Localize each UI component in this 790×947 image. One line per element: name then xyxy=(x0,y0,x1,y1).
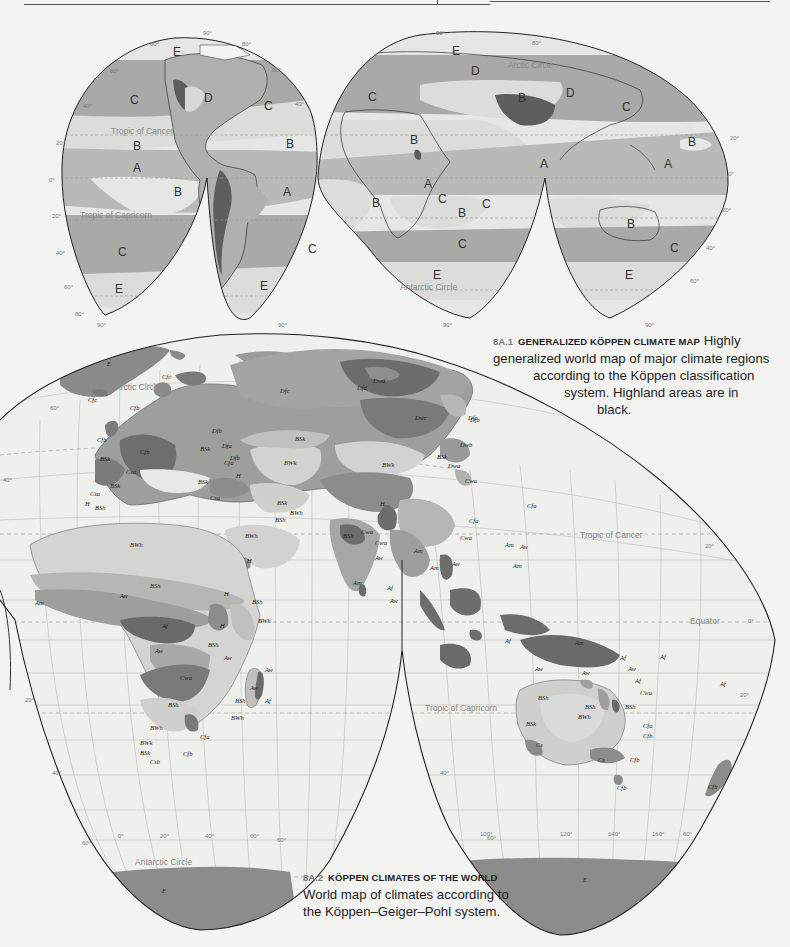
svg-text:D: D xyxy=(204,91,213,105)
svg-text:Af: Af xyxy=(504,637,512,644)
svg-text:Cfb: Cfb xyxy=(97,436,107,443)
svg-text:60°: 60° xyxy=(50,405,60,411)
svg-text:90°: 90° xyxy=(278,322,288,328)
svg-text:60°: 60° xyxy=(110,68,120,74)
svg-text:Cfc: Cfc xyxy=(162,373,171,380)
svg-text:BWh: BWh xyxy=(231,714,244,721)
svg-text:Af: Af xyxy=(386,584,394,591)
svg-text:160°: 160° xyxy=(652,831,665,837)
svg-text:60°: 60° xyxy=(250,833,260,839)
svg-text:BSk: BSk xyxy=(140,749,150,756)
svg-text:80°: 80° xyxy=(75,311,85,317)
svg-text:Aw: Aw xyxy=(519,543,529,550)
svg-text:E: E xyxy=(161,887,166,894)
svg-text:BWh: BWh xyxy=(130,541,143,548)
map2-degree-labels: 0° 20° 40° 60° 100° 120° 140° 160° 60° 4… xyxy=(3,405,754,846)
svg-text:C: C xyxy=(118,245,127,259)
svg-text:Af: Af xyxy=(634,677,642,684)
svg-text:Am: Am xyxy=(504,541,514,548)
svg-text:60°: 60° xyxy=(487,835,497,841)
svg-text:Cwa: Cwa xyxy=(640,689,652,696)
svg-text:Cfb: Cfb xyxy=(140,448,150,455)
svg-text:Aw: Aw xyxy=(154,647,164,654)
svg-text:Equator: Equator xyxy=(690,616,720,626)
svg-text:Cfa: Cfa xyxy=(469,517,478,524)
svg-text:C: C xyxy=(438,192,447,206)
svg-text:E: E xyxy=(173,45,181,59)
svg-text:B: B xyxy=(372,196,380,210)
svg-text:Af: Af xyxy=(619,654,627,661)
svg-text:0°: 0° xyxy=(728,171,734,177)
svg-text:60°: 60° xyxy=(272,67,282,73)
svg-text:BSh: BSh xyxy=(625,703,635,710)
svg-text:B: B xyxy=(286,137,294,151)
svg-text:C: C xyxy=(368,90,377,104)
svg-text:A: A xyxy=(664,157,672,171)
svg-text:90°: 90° xyxy=(443,322,453,328)
svg-text:60°: 60° xyxy=(277,837,287,843)
svg-text:Am: Am xyxy=(34,599,44,606)
svg-text:60°: 60° xyxy=(64,284,74,290)
svg-text:Aw: Aw xyxy=(451,560,461,567)
svg-text:90°: 90° xyxy=(97,322,107,328)
svg-text:20°: 20° xyxy=(730,135,740,141)
svg-text:D: D xyxy=(471,64,480,78)
svg-text:H: H xyxy=(379,500,385,507)
svg-text:Dfb: Dfb xyxy=(229,454,241,461)
svg-text:BSh: BSh xyxy=(168,701,178,708)
svg-text:Aw: Aw xyxy=(627,665,637,672)
svg-text:D: D xyxy=(566,86,575,100)
svg-text:Csa: Csa xyxy=(90,490,100,497)
svg-text:H: H xyxy=(219,622,225,629)
caption-line-5: black. xyxy=(597,401,790,418)
svg-text:C: C xyxy=(264,99,273,113)
svg-text:Cfc: Cfc xyxy=(88,396,97,403)
svg-text:Dfb: Dfb xyxy=(211,427,223,434)
svg-text:Dfd: Dfd xyxy=(356,384,368,391)
caption-line-1: Highly xyxy=(704,333,741,348)
svg-text:E: E xyxy=(115,282,123,296)
svg-text:Cwa: Cwa xyxy=(375,539,387,546)
svg-text:B: B xyxy=(458,206,466,220)
svg-text:A: A xyxy=(283,185,291,199)
svg-text:0°: 0° xyxy=(118,833,124,839)
svg-text:Cs: Cs xyxy=(598,756,605,763)
svg-text:40°: 40° xyxy=(706,245,716,251)
svg-text:Af: Af xyxy=(264,697,272,704)
svg-text:B: B xyxy=(688,135,696,149)
svg-text:Af: Af xyxy=(719,680,727,687)
svg-text:Antarctic Circle: Antarctic Circle xyxy=(400,282,457,292)
svg-text:Arctic Circle: Arctic Circle xyxy=(115,382,161,392)
svg-text:BSk: BSk xyxy=(526,720,536,727)
svg-text:Csa: Csa xyxy=(210,494,220,501)
svg-text:BSh: BSh xyxy=(252,598,262,605)
svg-text:Cfa: Cfa xyxy=(224,459,233,466)
svg-text:Tropic of Capricorn: Tropic of Capricorn xyxy=(425,703,497,713)
svg-text:40°: 40° xyxy=(440,770,450,776)
figure-number: 8A.1 xyxy=(493,336,513,347)
svg-text:20°: 20° xyxy=(52,213,62,219)
svg-text:Csb: Csb xyxy=(150,758,161,765)
svg-text:Af: Af xyxy=(659,653,667,660)
svg-text:Aw: Aw xyxy=(223,654,233,661)
caption-line-2: the Köppen–Geiger–Pohl system. xyxy=(303,903,523,920)
svg-text:BSh: BSh xyxy=(95,504,105,511)
map2-reference-line-labels: Arctic Circle Tropic of Cancer Equator T… xyxy=(115,382,720,867)
svg-text:90°: 90° xyxy=(436,30,446,36)
svg-text:40°: 40° xyxy=(56,250,66,256)
svg-text:B: B xyxy=(174,185,182,199)
svg-text:BSk: BSk xyxy=(110,482,120,489)
svg-text:Dfb: Dfb xyxy=(469,416,481,423)
figure-8a1-caption: 8A.1GENERALIZED KÖPPEN CLIMATE MAPHighly… xyxy=(493,332,790,418)
svg-text:Cwa: Cwa xyxy=(465,477,477,484)
svg-text:E: E xyxy=(452,44,460,58)
svg-text:BSh: BSh xyxy=(208,641,218,648)
svg-text:60°: 60° xyxy=(82,840,92,846)
map2-region-labels: E Cfc Cfc Cfb Cfb Cfb BSk Csa BSk Csa BS… xyxy=(34,360,727,894)
textbook-page: E C D C B A B C E B A C E E C D B D C B … xyxy=(0,0,790,947)
svg-text:Cs: Cs xyxy=(536,741,543,748)
svg-text:Am: Am xyxy=(413,547,423,554)
svg-text:20°: 20° xyxy=(25,697,35,703)
svg-text:Aw: Aw xyxy=(264,666,274,673)
svg-text:Tropic of Cancer: Tropic of Cancer xyxy=(111,126,174,136)
